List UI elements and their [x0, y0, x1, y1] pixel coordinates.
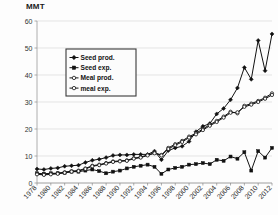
x-tick-label: 2000	[174, 184, 190, 200]
legend-marker	[72, 86, 75, 89]
legend-marker	[72, 76, 75, 79]
data-point-marker	[77, 170, 80, 173]
data-point-marker	[49, 173, 52, 176]
data-point-marker	[215, 158, 218, 161]
data-point-marker	[146, 163, 149, 166]
data-point-marker	[125, 159, 128, 162]
data-point-marker	[235, 86, 239, 90]
x-tick-label: 1992	[119, 184, 135, 200]
data-point-marker	[125, 167, 128, 170]
data-point-marker	[181, 140, 184, 143]
data-point-marker	[56, 166, 60, 170]
data-point-marker	[236, 111, 239, 114]
data-point-marker	[271, 146, 274, 149]
data-point-marker	[194, 163, 197, 166]
data-point-marker	[243, 105, 246, 108]
data-point-marker	[264, 156, 267, 159]
data-point-marker	[63, 164, 67, 168]
data-point-marker	[84, 167, 87, 170]
x-tick-label: 1980	[36, 184, 52, 200]
data-point-marker	[257, 150, 260, 153]
data-point-marker	[35, 167, 39, 171]
x-tick-label: 2008	[229, 184, 245, 200]
legend-marker	[72, 66, 75, 69]
x-tick-label: 1982	[50, 184, 66, 200]
y-tick-label: 30	[25, 99, 33, 106]
series-line	[37, 95, 272, 175]
data-point-marker	[188, 163, 191, 166]
data-point-marker	[187, 136, 190, 139]
x-tick-label: 1986	[77, 184, 93, 200]
data-point-marker	[70, 164, 74, 168]
y-tick-label: 10	[25, 153, 33, 160]
data-point-marker	[98, 170, 101, 173]
y-tick-label: 60	[25, 18, 33, 25]
data-point-marker	[174, 144, 177, 147]
data-point-marker	[208, 163, 211, 166]
data-point-marker	[153, 165, 156, 168]
data-point-marker	[98, 164, 101, 167]
y-tick-label: 40	[25, 72, 33, 79]
data-point-marker	[243, 151, 246, 154]
data-point-marker	[256, 38, 260, 42]
y-tick-label: 20	[25, 126, 33, 133]
data-point-marker	[208, 124, 211, 127]
data-point-marker	[160, 154, 163, 157]
line-chart: MMT 0102030405060 1978198019821984198619…	[0, 0, 278, 215]
data-point-marker	[215, 120, 218, 123]
legend-label: Seed exp.	[81, 64, 112, 72]
x-tick-label: 2004	[202, 184, 218, 200]
x-tick-labels-group: 1978198019821984198619881990199219941996…	[22, 184, 273, 200]
data-point-marker	[42, 168, 46, 172]
data-point-marker	[201, 128, 204, 131]
data-point-marker	[270, 93, 273, 96]
data-point-marker	[257, 100, 260, 103]
data-point-marker	[236, 157, 239, 160]
y-tick-label: 50	[25, 45, 33, 52]
data-point-marker	[42, 173, 45, 176]
data-point-marker	[139, 164, 142, 167]
x-tick-label: 1998	[160, 184, 176, 200]
data-point-marker	[167, 147, 170, 150]
data-point-marker	[250, 103, 253, 106]
data-point-marker	[249, 77, 253, 81]
data-point-marker	[139, 156, 142, 159]
data-point-marker	[263, 97, 266, 100]
data-point-marker	[118, 160, 121, 163]
chart-canvas: 0102030405060 19781980198219841986198819…	[0, 0, 278, 215]
data-point-marker	[105, 162, 108, 165]
legend-label: Seed prod.	[81, 54, 115, 62]
x-tick-label: 2002	[188, 184, 204, 200]
series-line	[37, 93, 272, 174]
data-point-marker	[91, 165, 94, 168]
data-point-marker	[35, 173, 38, 176]
data-point-marker	[111, 153, 115, 157]
data-point-marker	[105, 172, 108, 175]
data-point-marker	[201, 162, 204, 165]
x-tick-label: 1994	[133, 184, 149, 200]
data-point-marker	[91, 168, 94, 171]
data-point-marker	[83, 160, 87, 164]
x-tick-label: 2012	[257, 184, 273, 200]
data-point-marker	[194, 133, 197, 136]
axis-group	[35, 21, 273, 186]
y-axis-title: MMT	[26, 2, 45, 11]
data-point-marker	[70, 170, 73, 173]
data-point-marker	[160, 172, 163, 175]
data-point-marker	[49, 166, 53, 170]
data-point-marker	[270, 32, 274, 36]
data-point-marker	[222, 116, 225, 119]
data-point-marker	[229, 111, 232, 114]
data-point-marker	[146, 154, 149, 157]
data-point-marker	[56, 172, 59, 175]
data-point-marker	[63, 171, 66, 174]
data-point-marker	[90, 158, 94, 162]
x-tick-label: 1978	[22, 184, 38, 200]
data-point-marker	[118, 169, 121, 172]
legend-label: meal exp.	[81, 85, 111, 93]
x-tick-label: 2006	[216, 184, 232, 200]
x-tick-label: 1990	[105, 184, 121, 200]
data-point-marker	[112, 170, 115, 173]
data-point-marker	[222, 159, 225, 162]
data-point-marker	[132, 165, 135, 168]
